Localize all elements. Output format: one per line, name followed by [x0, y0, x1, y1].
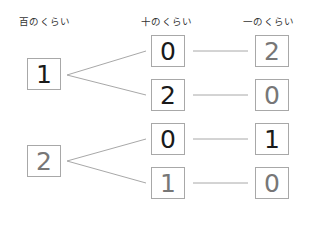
- ones-box-3: 1: [255, 123, 289, 155]
- tens-box-2: 2: [151, 79, 185, 111]
- tens-box-3: 0: [151, 123, 185, 155]
- tens-box-1: 0: [151, 35, 185, 67]
- tens-box-4: 1: [151, 167, 185, 199]
- hundreds-box-1: 1: [27, 58, 61, 90]
- hundreds-box-2: 2: [27, 145, 61, 177]
- ones-box-2: 0: [255, 79, 289, 111]
- ones-box-1: 2: [255, 35, 289, 67]
- ones-box-4: 0: [255, 167, 289, 199]
